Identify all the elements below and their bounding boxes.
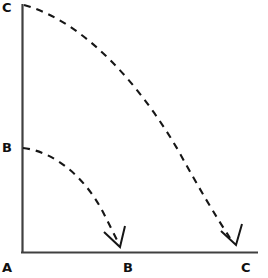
x-axis-label-mid: B [123, 261, 133, 274]
diagram-canvas: C B A B C [0, 0, 268, 278]
upper-dashed-curve [24, 5, 230, 238]
diagram-svg [0, 0, 268, 278]
y-axis-label-mid: B [2, 141, 12, 154]
y-axis-label-top: C [2, 1, 12, 14]
lower-dashed-curve [23, 148, 118, 242]
x-axis-label-right: C [241, 261, 251, 274]
upper-curve-arrowhead [221, 224, 242, 245]
origin-label: A [2, 261, 12, 274]
